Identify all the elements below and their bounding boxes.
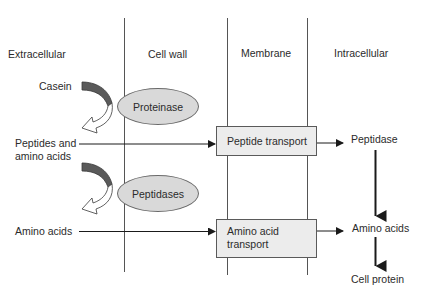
- cell-protein-label: Cell protein: [351, 273, 404, 285]
- amino-acids-intracellular-label: Amino acids: [352, 222, 409, 234]
- peptides-and-amino-acids-label-line2: amino acids: [15, 150, 71, 162]
- peptide-transport-box: Peptide transport: [216, 126, 317, 156]
- column-header-intracellular: Intracellular: [334, 47, 388, 59]
- amino-acid-transport-box: Amino acid transport: [216, 219, 317, 258]
- peptides-and-amino-acids-label-line1: Peptides and: [15, 137, 76, 149]
- peptide-hydrolysis-curved-arrow: [82, 163, 112, 214]
- column-header-membrane: Membrane: [241, 47, 291, 59]
- casein-degradation-curved-arrow: [82, 82, 112, 133]
- column-header-cell-wall: Cell wall: [148, 48, 187, 60]
- protein-uptake-diagram: Extracellular Cell wall Membrane Intrace…: [0, 0, 421, 298]
- amino-acid-transport-label-line1: Amino acid: [227, 225, 316, 238]
- column-header-extracellular: Extracellular: [8, 48, 66, 60]
- amino-acids-extracellular-label: Amino acids: [15, 225, 72, 237]
- peptide-transport-label: Peptide transport: [227, 135, 307, 147]
- amino-acid-transport-label-line2: transport: [227, 238, 316, 251]
- peptidases-ellipse: Peptidases: [117, 175, 199, 212]
- proteinase-label: Proteinase: [133, 101, 183, 113]
- peptidase-label: Peptidase: [351, 133, 398, 145]
- casein-label: Casein: [39, 80, 72, 92]
- proteinase-ellipse: Proteinase: [117, 88, 199, 125]
- diagram-lines: [0, 0, 421, 298]
- peptidases-label: Peptidases: [132, 188, 184, 200]
